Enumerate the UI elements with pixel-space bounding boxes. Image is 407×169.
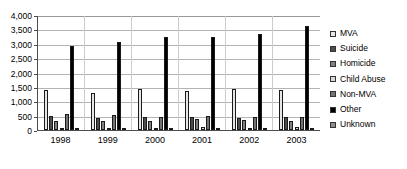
legend-swatch-unknown-icon: [330, 122, 336, 128]
bar: [258, 34, 262, 130]
bar-group: [85, 16, 132, 130]
bar: [101, 121, 105, 130]
bar: [190, 117, 194, 130]
legend-label: Non-MVA: [340, 90, 376, 99]
legend-swatch-other-icon: [330, 107, 336, 113]
bar: [143, 117, 147, 130]
legend-swatch-child-abuse-icon: [330, 76, 336, 82]
legend-label: Suicide: [340, 44, 368, 53]
chart-legend: MVASuicideHomicideChild AbuseNon-MVAOthe…: [330, 26, 405, 132]
x-axis: 199819992000200120022003: [37, 133, 320, 149]
bar: [253, 117, 257, 131]
bar: [107, 128, 111, 130]
y-axis-tick-label: 500: [18, 113, 32, 121]
bar: [232, 89, 236, 130]
bar: [117, 42, 121, 130]
y-axis-tick-label: 1,500: [11, 84, 32, 92]
bar: [169, 128, 173, 130]
bar: [201, 127, 205, 130]
bar: [91, 93, 95, 130]
bar-group: [273, 16, 320, 130]
bar: [216, 128, 220, 130]
legend-item-homicide[interactable]: Homicide: [330, 56, 405, 71]
bar: [195, 119, 199, 130]
bar: [263, 128, 267, 130]
bar: [49, 116, 53, 130]
bar: [284, 117, 288, 130]
legend-item-suicide[interactable]: Suicide: [330, 41, 405, 56]
x-axis-tick-label: 2000: [131, 133, 178, 149]
bar: [300, 117, 304, 130]
bar: [237, 118, 241, 130]
bar: [185, 91, 189, 130]
x-axis-tick-label: 2002: [226, 133, 273, 149]
y-axis-tick-label: 1,000: [11, 98, 32, 106]
bar-group: [226, 16, 273, 130]
legend-item-other[interactable]: Other: [330, 102, 405, 117]
x-axis-tick-label: 1998: [37, 133, 84, 149]
y-axis-tick-label: 3,000: [11, 41, 32, 49]
bar-group: [38, 16, 85, 130]
bar-groups: [38, 16, 320, 130]
legend-item-child-abuse[interactable]: Child Abuse: [330, 72, 405, 87]
x-axis-tick-label: 2001: [179, 133, 226, 149]
bar: [138, 89, 142, 130]
bar: [112, 115, 116, 130]
legend-label: Other: [340, 105, 361, 114]
y-axis: 05001,0001,5002,0002,5003,0003,5004,000: [0, 0, 37, 147]
bar: [206, 116, 210, 130]
bar: [54, 121, 58, 130]
x-axis-tick-label: 2003: [273, 133, 320, 149]
legend-label: Unknown: [340, 120, 375, 129]
bar: [295, 127, 299, 130]
bar: [159, 117, 163, 130]
legend-item-non-mva[interactable]: Non-MVA: [330, 87, 405, 102]
y-axis-tick-label: 4,000: [11, 12, 32, 20]
legend-item-mva[interactable]: MVA: [330, 26, 405, 41]
legend-swatch-non-mva-icon: [330, 91, 336, 97]
bar: [211, 37, 215, 130]
bar: [44, 90, 48, 130]
bar: [248, 128, 252, 130]
bar: [96, 118, 100, 130]
legend-label: Homicide: [340, 59, 375, 68]
bar: [65, 114, 69, 130]
bar: [154, 128, 158, 130]
bar: [279, 90, 283, 130]
bar: [242, 120, 246, 130]
y-axis-tick-label: 3,500: [11, 26, 32, 34]
legend-label: MVA: [340, 29, 358, 38]
bar: [164, 37, 168, 130]
legend-swatch-homicide-icon: [330, 61, 336, 67]
bar-chart: 05001,0001,5002,0002,5003,0003,5004,000 …: [0, 0, 407, 169]
bar: [148, 121, 152, 130]
x-axis-tick-label: 1999: [84, 133, 131, 149]
bar: [310, 128, 314, 130]
bar-group: [132, 16, 179, 130]
legend-label: Child Abuse: [340, 75, 385, 84]
legend-swatch-mva-icon: [330, 31, 336, 37]
bar: [70, 46, 74, 130]
bar: [75, 128, 79, 130]
bar: [305, 26, 309, 130]
y-axis-tick-label: 2,500: [11, 55, 32, 63]
bar: [60, 128, 64, 130]
bar: [289, 121, 293, 130]
y-axis-tick-mark: [34, 131, 37, 132]
legend-swatch-suicide-icon: [330, 46, 336, 52]
y-axis-tick-label: 0: [27, 127, 32, 135]
y-axis-tick-label: 2,000: [11, 70, 32, 78]
bar-group: [179, 16, 226, 130]
bar: [122, 128, 126, 130]
plot-area: [37, 16, 320, 131]
legend-item-unknown[interactable]: Unknown: [330, 117, 405, 132]
